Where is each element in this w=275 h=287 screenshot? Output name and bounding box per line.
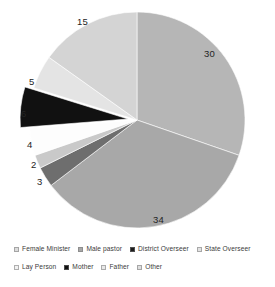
legend-label: Father (109, 264, 129, 271)
legend-label: Female Minister (22, 246, 70, 253)
legend-swatch-icon (64, 265, 69, 270)
legend-swatch-icon (130, 247, 135, 252)
legend-item[interactable]: Other (137, 264, 162, 271)
legend-item[interactable]: Mother (64, 264, 93, 271)
slice-value-label: 5 (29, 77, 34, 87)
legend-label: Other (145, 264, 162, 271)
legend-swatch-icon (78, 247, 83, 252)
chart-legend: Female MinisterMale pastorDistrict Overs… (0, 236, 275, 287)
legend-item[interactable]: Female Minister (14, 246, 70, 253)
legend-swatch-icon (101, 265, 106, 270)
slice-value-label: 6 (21, 109, 26, 119)
legend-swatch-icon (14, 247, 19, 252)
pie-chart: 30343246515 Female MinisterMale pastorDi… (0, 0, 275, 287)
legend-item[interactable]: Father (101, 264, 129, 271)
slice-value-label: 3 (37, 177, 42, 187)
slice-value-label: 34 (153, 215, 164, 225)
pie-slices (0, 0, 275, 236)
pie-plot-area: 30343246515 (0, 0, 275, 236)
slice-value-label: 2 (31, 160, 36, 170)
slice-value-label: 15 (77, 17, 88, 27)
legend-row: Female MinisterMale pastorDistrict Overs… (14, 240, 269, 258)
slice-value-label: 4 (27, 140, 32, 150)
slice-value-label: 30 (204, 49, 215, 59)
legend-item[interactable]: Male pastor (78, 246, 122, 253)
legend-item[interactable]: District Overseer (130, 246, 189, 253)
legend-label: District Overseer (138, 246, 189, 253)
legend-label: Mother (72, 264, 93, 271)
legend-swatch-icon (197, 247, 202, 252)
legend-item[interactable]: Lay Person (14, 264, 56, 271)
legend-label: Lay Person (22, 264, 56, 271)
legend-item[interactable]: State Overseer (197, 246, 251, 253)
legend-label: State Overseer (205, 246, 251, 253)
legend-label: Male pastor (86, 246, 122, 253)
legend-swatch-icon (14, 265, 19, 270)
legend-row: Lay PersonMotherFatherOther (14, 258, 269, 276)
legend-swatch-icon (137, 265, 142, 270)
